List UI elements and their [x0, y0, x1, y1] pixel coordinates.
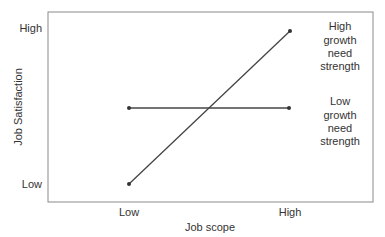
x-tick-low: Low — [119, 206, 139, 218]
annotation-low-line1: Low — [330, 95, 350, 107]
annotation-low-line4: strength — [320, 135, 360, 147]
series-low-gns-point-high — [287, 106, 291, 110]
annotation-high-line1: High — [329, 20, 352, 32]
y-axis-label: Job Satisfaction — [12, 68, 24, 146]
interaction-chart: High Low Job Satisfaction Low High Job s… — [0, 0, 385, 237]
annotation-high-line2: growth — [323, 34, 356, 46]
x-axis-label: Job scope — [185, 221, 235, 233]
annotation-high-gns: High growth need strength — [320, 20, 360, 72]
annotation-low-line3: need — [328, 122, 352, 134]
series-low-gns-point-low — [127, 106, 131, 110]
annotation-low-line2: growth — [323, 109, 356, 121]
annotation-high-line3: need — [328, 47, 352, 59]
y-tick-high: High — [19, 22, 42, 34]
series-high-gns-point-high — [288, 29, 292, 33]
annotation-low-gns: Low growth need strength — [320, 95, 360, 147]
y-tick-low: Low — [22, 178, 42, 190]
x-tick-high: High — [279, 206, 302, 218]
annotation-high-line4: strength — [320, 60, 360, 72]
series-high-gns-point-low — [127, 182, 131, 186]
